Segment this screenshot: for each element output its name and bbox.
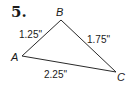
vertex-label-a: A — [10, 51, 18, 63]
side-label-ac: 2.25" — [44, 69, 67, 80]
vertex-label-b: B — [56, 6, 63, 18]
side-label-bc: 1.75" — [87, 34, 110, 45]
problem-number: 5. — [11, 3, 27, 21]
side-label-ab: 1.25" — [19, 29, 42, 40]
triangle-figure: 5. B A C 1.25" 1.75" 2.25" — [0, 0, 130, 95]
vertex-label-c: C — [117, 71, 125, 83]
